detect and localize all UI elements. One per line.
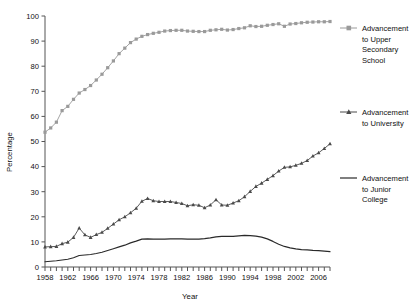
x-tick-label: 1990: [219, 273, 236, 282]
x-tick-label: 1982: [173, 273, 190, 282]
data-point: [220, 28, 223, 31]
data-point: [317, 20, 320, 23]
chart-legend: Advancementto UpperSecondarySchoolAdvanc…: [340, 24, 409, 204]
y-tick-label: 70: [31, 87, 39, 96]
data-point: [157, 31, 160, 34]
y-tick-label: 90: [31, 37, 39, 46]
data-point: [77, 226, 81, 230]
data-point: [95, 78, 98, 81]
legend-label: Advancement: [362, 174, 409, 183]
x-tick-label: 1966: [82, 273, 99, 282]
series-3: [45, 235, 330, 261]
data-point: [323, 20, 326, 23]
data-point: [317, 151, 321, 155]
data-point: [306, 21, 309, 24]
data-point: [277, 22, 280, 25]
y-tick-label: 80: [31, 62, 39, 71]
data-point: [83, 88, 86, 91]
data-point: [328, 142, 332, 146]
data-point: [106, 226, 110, 230]
data-point: [283, 25, 286, 28]
y-axis-title: Percentage: [5, 132, 14, 172]
data-point: [328, 20, 331, 23]
y-tick-label: 10: [31, 238, 39, 247]
data-point: [277, 169, 281, 173]
data-point: [169, 29, 172, 32]
data-point: [106, 66, 109, 69]
legend-item-1[interactable]: Advancementto UpperSecondarySchool: [340, 24, 409, 65]
data-point: [300, 21, 303, 24]
x-tick-label: 1998: [265, 273, 282, 282]
data-point: [129, 41, 132, 44]
x-tick-label: 1970: [105, 273, 122, 282]
series-line: [45, 144, 330, 247]
x-tick-label: 1958: [37, 273, 54, 282]
data-point: [266, 24, 269, 27]
data-point: [61, 109, 64, 112]
data-point: [112, 222, 116, 226]
x-tick-label: 2006: [310, 273, 327, 282]
data-point: [254, 25, 257, 28]
data-point: [294, 22, 297, 25]
data-point: [118, 52, 121, 55]
data-point: [163, 29, 166, 32]
data-point: [192, 30, 195, 33]
data-point: [237, 27, 240, 30]
series-group: [43, 20, 332, 262]
data-point: [249, 24, 252, 27]
data-point: [186, 29, 189, 32]
y-tick-labels: 0102030405060708090100: [26, 12, 39, 272]
y-tick-label: 60: [31, 112, 39, 121]
data-point: [197, 30, 200, 33]
data-point: [237, 199, 241, 203]
data-point: [214, 198, 218, 202]
legend-square-icon: [347, 26, 352, 31]
data-point: [180, 29, 183, 32]
series-2: [43, 142, 332, 249]
data-point: [100, 73, 103, 76]
data-point: [260, 181, 264, 185]
legend-item-2[interactable]: Advancementto University: [340, 108, 409, 128]
legend-label: Secondary: [362, 45, 399, 54]
y-tick-label: 50: [31, 137, 39, 146]
data-point: [112, 59, 115, 62]
data-point: [152, 32, 155, 35]
data-point: [43, 131, 46, 134]
data-point: [175, 29, 178, 32]
data-point: [289, 22, 292, 25]
data-point: [146, 33, 149, 36]
legend-label: to Upper: [362, 35, 392, 44]
axis-group: [42, 16, 331, 271]
y-tick-label: 30: [31, 188, 39, 197]
plot-area: 0102030405060708090100 19581962196619701…: [26, 12, 332, 282]
data-point: [78, 91, 81, 94]
data-point: [311, 20, 314, 23]
x-tick-label: 1974: [128, 273, 145, 282]
y-tick-label: 100: [26, 12, 39, 21]
data-point: [203, 30, 206, 33]
data-point: [260, 25, 263, 28]
data-point: [89, 84, 92, 87]
data-point: [214, 28, 217, 31]
data-point: [243, 26, 246, 29]
chart-container: 0102030405060708090100 19581962196619701…: [0, 0, 413, 304]
data-point: [100, 230, 104, 234]
x-axis-title: Year: [182, 292, 198, 301]
legend-item-3[interactable]: Advancementto JuniorCollege: [340, 174, 409, 204]
x-tick-label: 2002: [287, 273, 304, 282]
y-tick-label: 40: [31, 162, 39, 171]
legend-label: Advancement: [362, 108, 409, 117]
data-point: [232, 28, 235, 31]
data-point: [135, 37, 138, 40]
axis-lines: [45, 16, 330, 267]
data-point: [55, 121, 58, 124]
data-point: [123, 215, 127, 219]
data-point: [66, 105, 69, 108]
legend-label: College: [362, 195, 388, 204]
x-tick-label: 1962: [59, 273, 76, 282]
data-point: [72, 98, 75, 101]
legend-label: School: [362, 56, 386, 65]
data-point: [226, 28, 229, 31]
series-line: [45, 235, 330, 261]
y-tick-label: 0: [35, 263, 39, 272]
